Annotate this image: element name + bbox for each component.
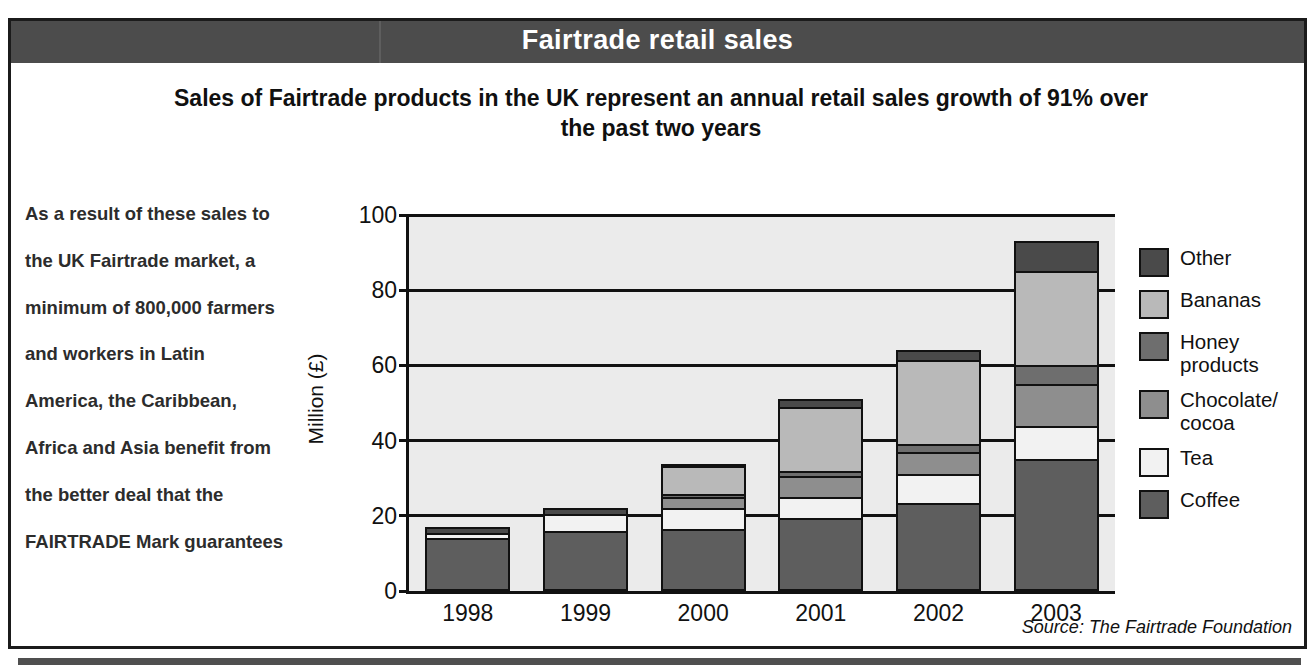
legend-item-label: Bananas — [1180, 289, 1261, 312]
bar-segment-coffee[interactable] — [1014, 459, 1099, 591]
bar-segment-honey-products[interactable] — [1014, 365, 1099, 384]
x-axis-tick-label: 1998 — [442, 600, 493, 627]
bar-segment-coffee[interactable] — [543, 531, 628, 591]
legend-swatch-icon — [1139, 490, 1169, 519]
page-title: Fairtrade retail sales — [11, 25, 1304, 56]
bar-segment-other[interactable] — [1014, 241, 1099, 271]
legend-swatch-icon — [1139, 248, 1169, 277]
bar-2002[interactable] — [896, 350, 981, 591]
legend-item-label: Chocolate/ cocoa — [1180, 389, 1299, 435]
legend-item[interactable]: Chocolate/ cocoa — [1139, 389, 1299, 435]
header-band: Fairtrade retail sales — [11, 21, 1304, 63]
y-axis-tick — [399, 364, 409, 367]
bar-2001[interactable] — [778, 399, 863, 591]
scan-edge-shadow — [18, 658, 1301, 665]
chart-legend: OtherBananasHoney productsChocolate/ coc… — [1139, 247, 1299, 531]
legend-item-label: Tea — [1180, 447, 1213, 470]
plot-area: 020406080100199819992000200120022003 — [406, 215, 1115, 594]
bar-segment-chocolate-cocoa[interactable] — [896, 452, 981, 475]
bar-segment-other[interactable] — [543, 508, 628, 514]
legend-item-label: Coffee — [1180, 489, 1240, 512]
legend-item[interactable]: Coffee — [1139, 489, 1299, 519]
y-axis-tick-label: 100 — [359, 202, 397, 229]
legend-item[interactable]: Tea — [1139, 447, 1299, 477]
y-axis-tick-label: 20 — [371, 502, 397, 529]
y-axis-tick — [399, 514, 409, 517]
y-axis-tick — [399, 439, 409, 442]
bar-segment-bananas[interactable] — [778, 407, 863, 471]
bar-segment-bananas[interactable] — [661, 466, 746, 494]
bar-segment-coffee[interactable] — [778, 518, 863, 591]
bar-segment-bananas[interactable] — [896, 360, 981, 445]
x-axis-tick-label: 1999 — [560, 600, 611, 627]
y-axis-tick — [399, 289, 409, 292]
bar-segment-tea[interactable] — [661, 508, 746, 529]
legend-swatch-icon — [1139, 332, 1169, 361]
legend-item[interactable]: Other — [1139, 247, 1299, 277]
y-axis-tick — [399, 214, 409, 217]
bar-segment-coffee[interactable] — [661, 529, 746, 591]
bar-segment-tea[interactable] — [1014, 426, 1099, 460]
bar-segment-chocolate-cocoa[interactable] — [661, 497, 746, 508]
y-axis-tick-label: 0 — [384, 578, 397, 605]
bar-segment-other[interactable] — [661, 464, 746, 466]
x-axis-tick-label: 2001 — [795, 600, 846, 627]
source-attribution: Source: The Fairtrade Foundation — [1022, 617, 1292, 638]
legend-item[interactable]: Bananas — [1139, 289, 1299, 319]
bar-2000[interactable] — [661, 465, 746, 591]
y-axis-tick-label: 40 — [371, 427, 397, 454]
legend-item-label: Honey products — [1180, 331, 1299, 377]
legend-item[interactable]: Honey products — [1139, 331, 1299, 377]
x-axis-tick-label: 2000 — [678, 600, 729, 627]
figure-page: Fairtrade retail sales Sales of Fairtrad… — [0, 0, 1315, 665]
legend-item-label: Other — [1180, 247, 1231, 270]
bar-segment-bananas[interactable] — [1014, 271, 1099, 365]
bar-segment-tea[interactable] — [543, 514, 628, 531]
bar-segment-honey-products[interactable] — [896, 444, 981, 452]
bar-segment-other[interactable] — [425, 527, 510, 533]
chart-subtitle: Sales of Fairtrade products in the UK re… — [161, 83, 1161, 144]
y-axis-tick — [399, 590, 409, 593]
gridline — [409, 289, 1115, 292]
figure-frame: Fairtrade retail sales Sales of Fairtrad… — [8, 18, 1307, 649]
bar-1999[interactable] — [543, 508, 628, 591]
chart: Million (£) 0204060801001998199920002001… — [294, 191, 1294, 631]
bar-segment-tea[interactable] — [425, 533, 510, 539]
bar-segment-chocolate-cocoa[interactable] — [1014, 384, 1099, 425]
bar-segment-honey-products[interactable] — [661, 494, 746, 497]
bar-segment-tea[interactable] — [778, 497, 863, 518]
bar-1998[interactable] — [425, 527, 510, 591]
legend-swatch-icon — [1139, 448, 1169, 477]
legend-swatch-icon — [1139, 290, 1169, 319]
bar-segment-honey-products[interactable] — [778, 471, 863, 477]
gridline — [409, 364, 1115, 367]
y-axis-title: Million (£) — [304, 309, 328, 489]
side-note-text: As a result of these sales to the UK Fai… — [25, 191, 287, 565]
gridline — [409, 439, 1115, 442]
bar-2003[interactable] — [1014, 241, 1099, 591]
bar-segment-other[interactable] — [896, 350, 981, 359]
bar-segment-coffee[interactable] — [425, 538, 510, 591]
x-axis-tick-label: 2002 — [913, 600, 964, 627]
bar-segment-coffee[interactable] — [896, 503, 981, 591]
bar-segment-tea[interactable] — [896, 474, 981, 502]
y-axis-tick-label: 80 — [371, 277, 397, 304]
bar-segment-chocolate-cocoa[interactable] — [778, 476, 863, 497]
y-axis-tick-label: 60 — [371, 352, 397, 379]
gridline — [409, 214, 1115, 217]
bar-segment-other[interactable] — [778, 399, 863, 407]
gridline — [409, 514, 1115, 517]
legend-swatch-icon — [1139, 390, 1169, 419]
